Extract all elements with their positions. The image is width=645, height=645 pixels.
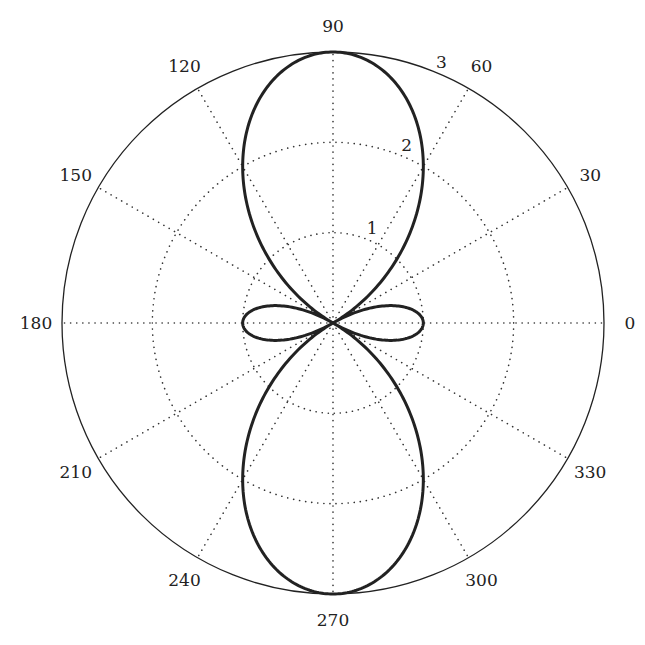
angle-tick-label: 90 xyxy=(322,16,344,36)
angle-tick-label: 120 xyxy=(168,56,200,76)
angle-tick-label: 60 xyxy=(471,56,493,76)
angular-grid-line xyxy=(333,323,469,558)
angle-tick-label: 240 xyxy=(168,570,200,590)
angle-tick-label: 330 xyxy=(574,462,606,482)
angle-tick-label: 210 xyxy=(60,462,92,482)
angle-tick-label: 300 xyxy=(465,570,497,590)
angular-grid-line xyxy=(333,88,469,323)
radial-tick-label: 2 xyxy=(401,135,412,155)
angle-tick-label: 180 xyxy=(20,313,52,333)
angle-tick-label: 0 xyxy=(625,313,636,333)
radial-tick-label: 3 xyxy=(436,52,447,72)
angular-grid-line xyxy=(198,323,334,558)
angular-grid-line xyxy=(333,188,568,324)
angular-grid-line xyxy=(333,323,568,459)
radial-tick-label: 1 xyxy=(367,218,378,238)
angle-tick-label: 30 xyxy=(579,165,601,185)
angular-grid-line xyxy=(98,188,333,324)
angle-tick-label: 270 xyxy=(317,610,349,630)
angle-tick-label: 150 xyxy=(60,165,92,185)
polar-plot xyxy=(0,0,645,645)
angular-grid-line xyxy=(198,88,334,323)
angular-grid-line xyxy=(98,323,333,459)
